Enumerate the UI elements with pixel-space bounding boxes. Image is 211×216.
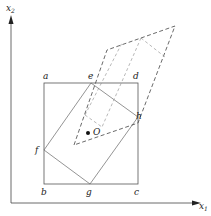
square-abcd [44,83,138,184]
x-axis-label: x1 [199,201,208,212]
label-a: a [43,71,48,81]
label-d: d [133,71,139,81]
inner-dashed-lines [85,38,165,127]
y-axis-label: x2 [6,3,15,14]
inner-dashed-line [85,115,102,127]
axes: x2 x1 [6,3,208,212]
inner-dashed-line [141,38,165,57]
label-g: g [86,187,92,197]
label-c: c [134,187,139,197]
label-h: h [136,111,142,121]
diagram: x2 x1 O a e d h f b g c [0,0,211,216]
label-b: b [41,187,47,197]
label-e: e [88,71,93,81]
rotated-rectangle-efgh [44,83,138,184]
label-f: f [34,145,40,155]
y-axis-arrow-icon [9,15,14,24]
label-o: O [93,127,101,137]
center-point-o [86,131,90,135]
